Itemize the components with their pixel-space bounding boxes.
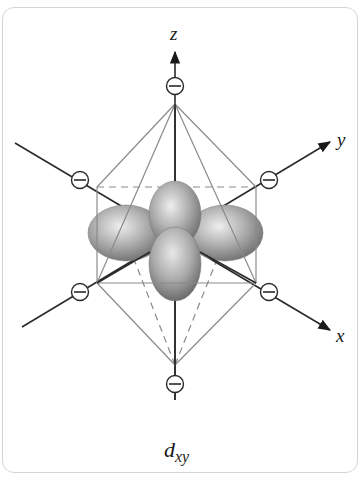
ligand-bottom-icon bbox=[167, 376, 184, 393]
ligand-lower-left-icon bbox=[72, 284, 89, 301]
x-axis-label: x bbox=[335, 325, 345, 346]
y-axis-label: y bbox=[335, 129, 346, 150]
ligand-top-icon bbox=[167, 78, 184, 95]
z-axis-label: z bbox=[169, 23, 178, 44]
dxy-orbital-diagram: z y x dxy bbox=[0, 0, 363, 477]
orbital-caption: dxy bbox=[164, 437, 190, 466]
ligand-upper-left-icon bbox=[72, 172, 89, 189]
ligand-lower-right-icon bbox=[261, 284, 278, 301]
ligand-upper-right-icon bbox=[261, 172, 278, 189]
lobe-front bbox=[149, 227, 201, 301]
orbital-caption-subscript: xy bbox=[174, 448, 190, 466]
